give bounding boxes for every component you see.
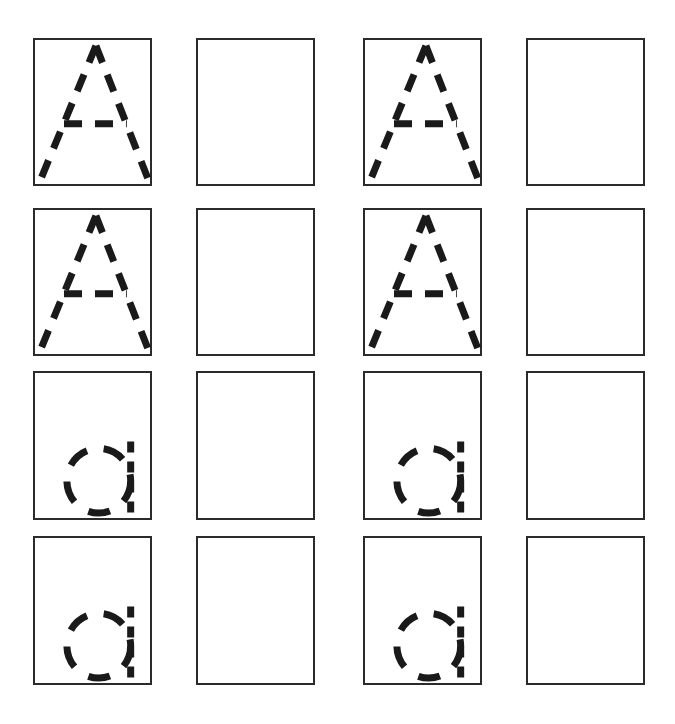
- stroke-left-diagonal: [371, 46, 426, 179]
- stroke-left-diagonal: [371, 216, 426, 349]
- cell-r2c2[interactable]: [196, 208, 315, 356]
- cell-r3c1[interactable]: [33, 371, 152, 520]
- glyph-uppercase-a: [35, 210, 150, 354]
- cell-r1c1[interactable]: [33, 38, 152, 186]
- cell-r4c4[interactable]: [526, 536, 645, 685]
- glyph-lowercase-a: [365, 538, 480, 683]
- cell-r1c2[interactable]: [196, 38, 315, 186]
- cell-r2c1[interactable]: [33, 208, 152, 356]
- stroke-bowl: [397, 448, 461, 513]
- cell-r4c2[interactable]: [196, 536, 315, 685]
- cell-r1c4[interactable]: [526, 38, 645, 186]
- glyph-uppercase-a: [365, 210, 480, 354]
- glyph-lowercase-a: [35, 373, 150, 518]
- stroke-right-diagonal: [96, 216, 148, 349]
- cell-r4c3[interactable]: [363, 536, 482, 685]
- cell-r2c4[interactable]: [526, 208, 645, 356]
- stroke-left-diagonal: [41, 216, 96, 349]
- stroke-right-diagonal: [96, 46, 148, 179]
- stroke-bowl: [397, 613, 461, 678]
- glyph-lowercase-a: [365, 373, 480, 518]
- stroke-bowl: [67, 448, 131, 513]
- cell-r3c2[interactable]: [196, 371, 315, 520]
- stroke-right-diagonal: [426, 216, 478, 349]
- cell-r3c4[interactable]: [526, 371, 645, 520]
- glyph-uppercase-a: [35, 40, 150, 184]
- cell-r4c1[interactable]: [33, 536, 152, 685]
- stroke-bowl: [67, 613, 131, 678]
- tracing-worksheet-grid: [0, 0, 675, 724]
- cell-r1c3[interactable]: [363, 38, 482, 186]
- stroke-right-diagonal: [426, 46, 478, 179]
- glyph-lowercase-a: [35, 538, 150, 683]
- glyph-uppercase-a: [365, 40, 480, 184]
- cell-r2c3[interactable]: [363, 208, 482, 356]
- cell-r3c3[interactable]: [363, 371, 482, 520]
- stroke-left-diagonal: [41, 46, 96, 179]
